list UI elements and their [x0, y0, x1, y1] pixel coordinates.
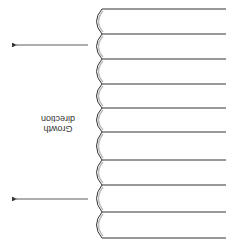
label-line-2: direction: [28, 114, 88, 124]
lamella-shading: [99, 36, 104, 57]
lamella-shading: [99, 110, 104, 130]
growth-direction-label: Growth direction: [28, 114, 88, 134]
lamella-shading: [99, 86, 104, 106]
lamella-shading: [99, 162, 104, 183]
lamella-shading: [99, 187, 104, 210]
lamella-shading: [99, 134, 104, 158]
lamella-shading: [99, 61, 104, 82]
lamella-shading: [99, 214, 104, 236]
lamella-shading: [99, 11, 104, 32]
label-line-1: Growth: [28, 124, 88, 134]
lamellae-stack: [97, 9, 227, 238]
